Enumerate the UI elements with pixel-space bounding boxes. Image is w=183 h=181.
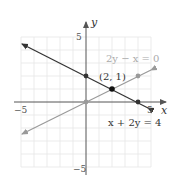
y-max-tick-label: 5 [76,32,82,42]
equation-gray-label: 2y − x = 0 [106,53,160,64]
intersection-label: (2, 1) [99,71,126,82]
x-axis-label: x [161,104,168,117]
equation-dark-label: x + 2y = 4 [108,117,162,128]
point-origin [84,100,89,105]
point-intersection [109,86,115,92]
y-min-tick-label: −5 [73,164,87,174]
x-max-tick-label: 5 [147,105,153,115]
y-axis-label: y [90,16,98,29]
point-4-2 [136,74,141,79]
point-0-2 [84,74,89,79]
graph: y x 5 −5 −5 5 2y − x = 0 x + 2y = 4 (2, … [0,0,183,181]
point-4-0 [136,100,141,105]
x-min-tick-label: −5 [14,105,28,115]
